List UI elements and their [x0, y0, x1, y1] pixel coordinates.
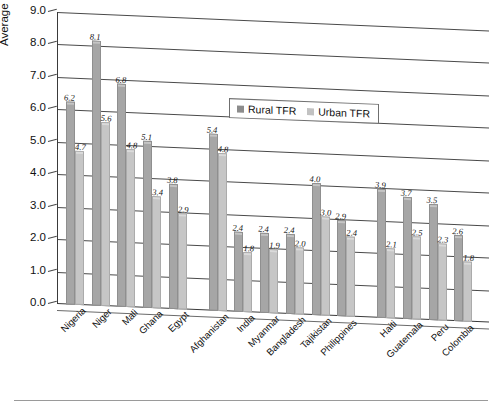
legend-item-rural: Rural TFR — [237, 102, 296, 116]
bar-group: 2.42.0 — [286, 22, 312, 315]
x-axis-label-ghana: Ghana — [137, 308, 165, 336]
bar-highlight — [413, 237, 420, 239]
bar-value-label-rural: 6.8 — [115, 75, 126, 85]
bar-value-label-urban: 2.5 — [412, 227, 423, 237]
bar-highlight — [430, 205, 437, 207]
bar-value-urban — [218, 153, 227, 311]
bar-group: 2.92.4 — [337, 24, 363, 317]
y-axis-tick-label: 3.0 — [0, 199, 46, 211]
bar-value-label-urban: 3.0 — [321, 207, 332, 217]
x-axis-label-mali: Mali — [119, 307, 139, 327]
bar-value-label-urban: 2.1 — [386, 239, 397, 249]
y-axis-tick-label: 8.0 — [0, 36, 46, 48]
bar-highlight — [287, 235, 294, 237]
bar-value-label-rural: 3.8 — [167, 174, 178, 184]
bar-value-label-urban: 1.8 — [463, 252, 474, 262]
bar-highlight — [296, 248, 303, 250]
bar-highlight — [93, 42, 100, 44]
bar-highlight — [404, 198, 411, 200]
y-axis-tick-mark — [48, 171, 57, 174]
legend-swatch-urban-icon — [307, 108, 314, 115]
y-axis-tick-label: 5.0 — [0, 134, 46, 146]
x-axis-label-niger: Niger — [90, 306, 114, 330]
bar-highlight — [455, 236, 462, 238]
chart-page: Average lifetime births per woman (TFR) … — [0, 0, 502, 415]
bar-highlight — [67, 102, 74, 104]
bar-group: 8.15.6 — [92, 13, 118, 306]
bar-highlight — [179, 214, 186, 216]
bar-value-label-urban: 3.4 — [152, 187, 163, 197]
bar-highlight — [244, 253, 251, 255]
bar-rural — [234, 232, 243, 312]
y-axis-tick-label: 4.0 — [0, 166, 46, 178]
bar-group: 4.03.0 — [312, 23, 338, 316]
bar-value-label-rural: 2.4 — [232, 223, 243, 233]
y-axis-tick-mark — [48, 41, 57, 44]
y-axis-tick-label: 0.0 — [0, 296, 46, 308]
bar-group: 3.92.1 — [377, 26, 403, 319]
bar-highlight — [270, 250, 277, 252]
bar-value-label-rural: 3.5 — [427, 195, 438, 205]
bar-rural — [312, 183, 321, 315]
x-axis-label-peru: Peru — [428, 321, 450, 343]
x-axis-label-india: India — [234, 312, 256, 334]
bar-highlight — [127, 150, 134, 152]
bar-value-urban — [178, 213, 187, 309]
bar-group: 3.82.9 — [169, 17, 195, 310]
bar-rural — [260, 233, 269, 313]
caption-divider — [14, 400, 488, 401]
bar-highlight — [76, 151, 83, 153]
bar-value-urban — [152, 196, 161, 309]
bar-rural — [209, 133, 218, 311]
bar-series-layer: 6.24.78.15.66.84.85.13.43.82.95.44.82.41… — [57, 12, 489, 322]
bar-highlight — [219, 154, 226, 156]
bar-value-label-rural: 2.4 — [258, 224, 269, 234]
x-axis-label-afghanistan: Afghanistan — [187, 311, 231, 355]
figure-caption — [14, 404, 484, 414]
bar-group: 6.84.8 — [117, 15, 143, 308]
bar-value-label-rural: 2.4 — [284, 225, 295, 235]
bar-value-label-rural: 5.1 — [141, 131, 152, 141]
bar-value-urban — [126, 149, 135, 307]
y-axis-tick-label: 7.0 — [0, 69, 46, 81]
y-axis-tick-mark — [48, 139, 57, 142]
bar-highlight — [261, 234, 268, 236]
bar-rural — [66, 101, 75, 305]
y-axis-tick-mark — [48, 74, 57, 77]
bar-value-label-rural: 6.2 — [64, 92, 75, 102]
bar-value-urban — [321, 216, 330, 316]
y-axis-tick-mark — [48, 106, 57, 109]
x-axis-label-nigeria: Nigeria — [59, 305, 88, 334]
bar-group: 3.72.5 — [403, 27, 429, 320]
bar-group: 2.41.9 — [260, 21, 286, 314]
bar-highlight — [235, 233, 242, 235]
bar-highlight — [102, 123, 109, 125]
y-axis-tick-mark — [48, 203, 57, 206]
x-axis-label-haiti: Haiti — [378, 318, 399, 339]
bar-highlight — [144, 141, 151, 143]
bar-rural — [429, 204, 438, 320]
bar-group: 2.61.8 — [454, 29, 480, 322]
y-axis-tick-label: 9.0 — [0, 4, 46, 16]
bar-value-label-rural: 3.7 — [401, 188, 412, 198]
bar-rural — [169, 184, 178, 310]
plot-skew-layer: 6.24.78.15.66.84.85.13.43.82.95.44.82.41… — [57, 12, 489, 322]
bar-group: 5.13.4 — [143, 16, 169, 309]
bar-highlight — [378, 190, 385, 192]
legend-label-rural: Rural TFR — [248, 103, 296, 117]
legend-label-urban: Urban TFR — [318, 106, 370, 120]
y-axis-tick-mark — [48, 268, 57, 271]
bar-value-label-urban: 1.8 — [243, 243, 254, 253]
bar-highlight — [347, 238, 354, 240]
bar-highlight — [210, 134, 217, 136]
bar-highlight — [338, 221, 345, 223]
y-axis-tick-mark — [48, 9, 57, 12]
bar-value-label-urban: 2.4 — [346, 228, 357, 238]
bar-highlight — [322, 217, 329, 219]
x-axis-category-labels: NigeriaNigerMaliGhanaEgyptAfghanistanInd… — [57, 304, 502, 380]
bar-group: 5.44.8 — [209, 18, 235, 311]
bar-highlight — [439, 245, 446, 247]
bar-value-label-urban: 4.8 — [218, 144, 229, 154]
chart-container: Average lifetime births per woman (TFR) … — [0, 0, 502, 372]
bar-highlight — [153, 197, 160, 199]
